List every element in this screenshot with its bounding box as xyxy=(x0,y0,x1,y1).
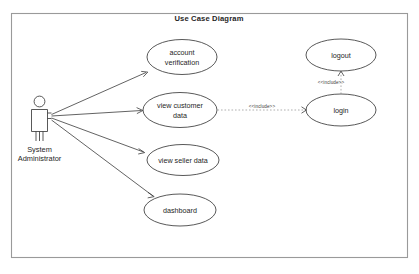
page-title: Use Case Diagram xyxy=(174,14,243,23)
association-dashboard xyxy=(52,120,154,196)
association-account-verification xyxy=(52,73,147,115)
include-relation-view-customer-data-login: <<include>> xyxy=(218,104,307,113)
use-case-label-line1: view customer xyxy=(157,101,204,110)
include-relation-login-logout: <<include>> xyxy=(318,71,345,94)
use-case-logout[interactable]: logout xyxy=(306,39,376,71)
use-case-account-verification[interactable]: account verification xyxy=(147,40,217,75)
use-case-label-line2: data xyxy=(173,111,187,120)
actor-label-line1: System xyxy=(27,145,52,154)
use-case-dashboard[interactable]: dashboard xyxy=(144,194,216,226)
association-view-customer-data xyxy=(52,111,142,117)
include-stereotype-vertical: <<include>> xyxy=(318,80,345,85)
use-case-view-customer-data[interactable]: view customer data xyxy=(143,93,217,128)
use-case-label-line1: logout xyxy=(331,51,351,60)
use-case-label-line1: view seller data xyxy=(158,156,208,165)
actor-stick-figure-icon xyxy=(32,96,52,141)
use-case-label-line1: account xyxy=(169,48,194,57)
use-case-label-line1: dashboard xyxy=(163,206,197,215)
include-stereotype-horizontal: <<include>> xyxy=(249,104,276,109)
arrowhead-dashboard xyxy=(148,192,155,198)
use-case-login[interactable]: login xyxy=(306,94,376,126)
association-arrowheads xyxy=(137,71,155,197)
association-lines xyxy=(52,73,154,197)
use-case-label-line2: verification xyxy=(165,58,199,67)
actor-system-administrator[interactable]: System Administrator xyxy=(18,96,62,163)
use-case-view-seller-data[interactable]: view seller data xyxy=(147,145,219,176)
use-case-label-line1: login xyxy=(333,106,348,115)
association-view-seller-data xyxy=(52,118,144,152)
use-case-diagram-canvas: Use Case Diagram System Administrator xyxy=(0,0,419,274)
actor-label-line2: Administrator xyxy=(18,154,62,163)
